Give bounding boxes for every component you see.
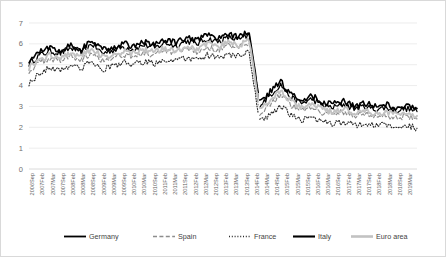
chart-container: 01234567 2006Sep2007Feb2007Mar2007Sep200… — [0, 0, 446, 257]
x-tick-label: 2019Mar — [407, 173, 413, 195]
x-tick-label: 2018Feb — [376, 173, 382, 195]
x-tick-label: 2011Sep — [182, 173, 188, 195]
x-tick-label: 2013Sep — [244, 173, 250, 195]
legend-label-euro: Euro area — [376, 232, 408, 241]
x-tick-label: 2010Feb — [131, 173, 137, 195]
x-tick-label: 2013Feb — [223, 173, 229, 195]
x-axis-tick-labels: 2006Sep2007Feb2007Mar2007Sep2008Feb2008M… — [29, 173, 413, 196]
x-tick-label: 2008Feb — [70, 173, 76, 195]
x-tick-label: 2017Mar — [356, 173, 362, 195]
y-tick-label: 1 — [19, 144, 23, 153]
x-tick-label: 2016Mar — [325, 173, 331, 195]
x-tick-label: 2017Feb — [346, 173, 352, 195]
y-tick-label: 0 — [19, 165, 23, 174]
y-tick-label: 3 — [19, 102, 23, 111]
legend-label-germany: Germany — [89, 232, 119, 241]
x-tick-label: 2008Sep — [90, 173, 96, 195]
y-tick-label: 5 — [19, 60, 23, 69]
x-tick-label: 2007Feb — [39, 173, 45, 195]
x-tick-label: 2018Mar — [387, 173, 393, 195]
series-line-france — [29, 50, 417, 130]
x-tick-label: 2011Feb — [162, 173, 168, 195]
x-tick-label: 2015Mar — [295, 173, 301, 195]
x-tick-label: 2007Mar — [50, 173, 56, 195]
x-tick-label: 2015Sep — [305, 173, 311, 195]
y-tick-label: 6 — [19, 39, 23, 48]
x-tick-label: 2015Feb — [284, 173, 290, 195]
legend-label-france: France — [254, 232, 276, 241]
x-tick-label: 2012Sep — [213, 173, 219, 195]
x-tick-label: 2012Mar — [203, 173, 209, 195]
y-axis-tick-labels: 01234567 — [19, 19, 23, 174]
chart-legend: GermanySpainFranceItalyEuro area — [64, 232, 408, 241]
x-tick-label: 2018Sep — [397, 173, 403, 195]
x-tick-label: 2016Feb — [315, 173, 321, 195]
x-tick-label: 2011Mar — [172, 173, 178, 195]
x-tick-label: 2009Sep — [121, 173, 127, 195]
x-tick-label: 2017Sep — [366, 173, 372, 195]
data-series-group — [29, 31, 417, 131]
x-tick-label: 2014Mar — [264, 173, 270, 195]
legend-label-italy: Italy — [318, 232, 332, 241]
x-tick-label: 2008Mar — [80, 173, 86, 195]
x-tick-label: 2009Mar — [111, 173, 117, 195]
x-tick-label: 2013Mar — [233, 173, 239, 195]
x-tick-label: 2010Mar — [141, 173, 147, 195]
x-tick-label: 2006Sep — [29, 173, 35, 195]
x-tick-label: 2016Sep — [335, 173, 341, 195]
y-tick-label: 2 — [19, 123, 23, 132]
x-tick-label: 2010Sep — [152, 173, 158, 195]
y-tick-label: 4 — [19, 81, 23, 90]
x-tick-label: 2014Feb — [254, 173, 260, 195]
legend-label-spain: Spain — [178, 232, 196, 241]
line-chart: 01234567 2006Sep2007Feb2007Mar2007Sep200… — [1, 1, 446, 257]
x-tick-label: 2012Feb — [193, 173, 199, 195]
y-tick-label: 7 — [19, 19, 23, 28]
x-tick-label: 2014Sep — [274, 173, 280, 195]
x-tick-label: 2009Feb — [101, 173, 107, 195]
x-tick-label: 2007Sep — [60, 173, 66, 195]
